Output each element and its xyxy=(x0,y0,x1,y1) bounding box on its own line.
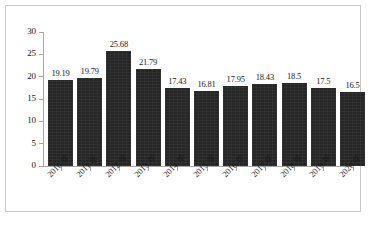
y-axis-tick xyxy=(39,166,43,167)
y-axis-tick xyxy=(39,32,43,33)
bar-value-label: 21.79 xyxy=(128,58,168,67)
y-axis-tick-label: 25 xyxy=(10,49,36,58)
y-axis-tick xyxy=(39,99,43,100)
bar-chart-figure: 051015202530 19.1919.7925.6821.7917.4316… xyxy=(0,0,374,228)
y-axis-tick xyxy=(39,54,43,55)
bar-value-label: 25.68 xyxy=(99,40,139,49)
y-axis-tick-label: 5 xyxy=(10,139,36,148)
y-axis-tick-label: 30 xyxy=(10,27,36,36)
y-axis-tick-label: 0 xyxy=(10,161,36,170)
bar-value-label: 19.79 xyxy=(70,67,110,76)
y-axis-tick-label: 15 xyxy=(10,94,36,103)
bar-value-label: 16.5 xyxy=(333,81,373,90)
y-axis-tick-label: 20 xyxy=(10,72,36,81)
y-axis-tick-label: 10 xyxy=(10,116,36,125)
y-axis-tick xyxy=(39,121,43,122)
y-axis-tick xyxy=(39,143,43,144)
